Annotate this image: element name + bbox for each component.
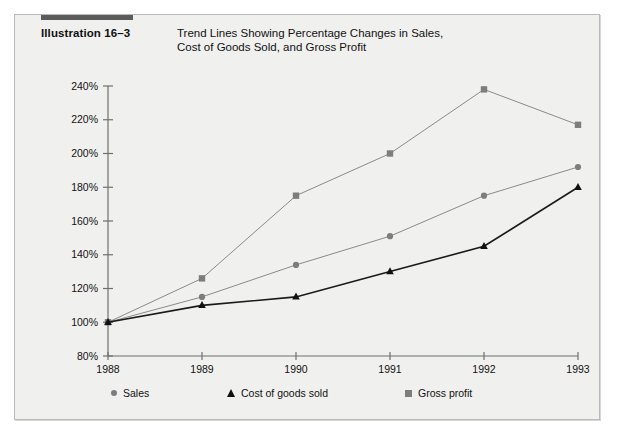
legend-label: Sales xyxy=(123,387,149,399)
data-point-gross-profit-1989[interactable] xyxy=(199,275,205,281)
x-tick-label: 1988 xyxy=(96,363,120,375)
data-point-sales-1992[interactable] xyxy=(481,193,487,199)
data-point-gross-profit-1993[interactable] xyxy=(575,122,581,128)
data-point-sales-1990[interactable] xyxy=(293,262,299,268)
legend-item-cost-of-goods-sold[interactable]: Cost of goods sold xyxy=(227,387,328,399)
x-tick-label: 1993 xyxy=(566,363,590,375)
x-tick-label: 1990 xyxy=(284,363,308,375)
legend-item-gross-profit[interactable]: Gross profit xyxy=(405,387,472,399)
data-point-sales-1991[interactable] xyxy=(387,233,393,239)
legend-label: Cost of goods sold xyxy=(241,387,328,399)
y-tick-label: 160% xyxy=(71,215,98,227)
data-point-gross-profit-1992[interactable] xyxy=(481,86,487,92)
data-point-gross-profit-1991[interactable] xyxy=(387,150,393,156)
circle-icon xyxy=(111,390,117,396)
y-tick-label: 240% xyxy=(71,80,98,92)
series-line-gross-profit xyxy=(108,89,578,322)
legend-label: Gross profit xyxy=(418,387,472,399)
y-tick-label: 220% xyxy=(71,113,98,125)
y-tick-label: 120% xyxy=(71,282,98,294)
series-line-sales xyxy=(108,167,578,322)
y-tick-label: 100% xyxy=(71,316,98,328)
legend-item-sales[interactable]: Sales xyxy=(111,387,149,399)
data-point-gross-profit-1990[interactable] xyxy=(293,192,299,198)
illustration-figure: Illustration 16–3 Trend Lines Showing Pe… xyxy=(14,14,600,420)
triangle-icon xyxy=(227,389,235,397)
trend-line-chart: 80%100%120%140%160%180%200%220%240%19881… xyxy=(15,15,601,421)
x-tick-label: 1992 xyxy=(472,363,496,375)
x-tick-label: 1989 xyxy=(190,363,214,375)
y-tick-label: 200% xyxy=(71,147,98,159)
chart-legend: SalesCost of goods soldGross profit xyxy=(15,387,601,409)
chart-plot-area: 80%100%120%140%160%180%200%220%240%19881… xyxy=(15,15,601,421)
data-point-sales-1993[interactable] xyxy=(575,164,581,170)
y-tick-label: 80% xyxy=(77,350,98,362)
y-tick-label: 140% xyxy=(71,248,98,260)
y-tick-label: 180% xyxy=(71,181,98,193)
square-icon xyxy=(405,390,412,397)
series-line-cost-of-goods-sold xyxy=(108,187,578,322)
data-point-sales-1989[interactable] xyxy=(199,294,205,300)
data-point-cost-of-goods-sold-1993[interactable] xyxy=(574,183,582,190)
x-tick-label: 1991 xyxy=(378,363,402,375)
